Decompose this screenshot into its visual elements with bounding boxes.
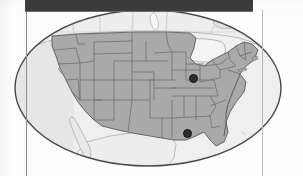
page-rule-left (26, 0, 27, 176)
map-marker-midwest[interactable] (189, 74, 198, 83)
map-marker-gulf-coast[interactable] (183, 129, 192, 138)
oval-map-frame (14, 8, 282, 168)
figure-page (0, 0, 303, 176)
top-scan-band (25, 0, 253, 11)
page-rule-right (262, 10, 263, 176)
